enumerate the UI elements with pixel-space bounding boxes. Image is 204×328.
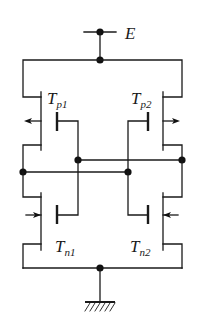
supply-terminal: E xyxy=(84,24,136,64)
transistor-tn2: Tn2 xyxy=(128,160,182,268)
tn1-label-sub: n1 xyxy=(64,246,75,258)
ground-terminal xyxy=(23,264,182,311)
svg-text:Tp2: Tp2 xyxy=(131,89,152,110)
cross-coupling xyxy=(19,156,185,175)
supply-label: E xyxy=(124,24,136,43)
transistor-tn1: Tn1 xyxy=(23,160,78,268)
tn2-label-sub: n2 xyxy=(139,246,151,258)
svg-text:Tp1: Tp1 xyxy=(47,89,67,110)
svg-text:Tn2: Tn2 xyxy=(130,237,151,258)
ground-icon xyxy=(85,303,115,311)
tp2-label-sub: p2 xyxy=(139,98,152,110)
cmos-latch-circuit: E Tp1 Tp2 Tn1 xyxy=(0,0,204,328)
transistor-tp1: Tp1 xyxy=(23,89,78,172)
tp1-label-sub: p1 xyxy=(55,98,67,110)
svg-text:Tn1: Tn1 xyxy=(55,237,75,258)
